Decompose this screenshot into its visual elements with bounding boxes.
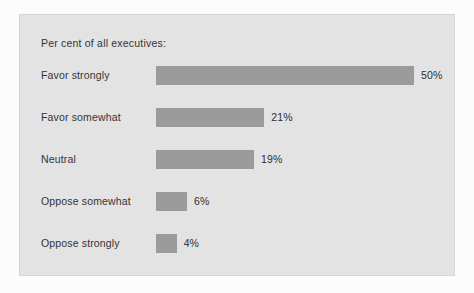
bar-value-label: 21% [271,108,292,127]
bar-category-label: Oppose somewhat [41,192,131,211]
bar-row: Neutral19% [20,150,456,169]
bar-row: Favor somewhat21% [20,108,456,127]
bar [156,108,264,127]
bar-row: Favor strongly50% [20,66,456,85]
bar-category-label: Favor strongly [41,66,110,85]
chart-figure: Per cent of all executives: Favor strong… [0,0,474,293]
bar-category-label: Neutral [41,150,76,169]
bar-track [156,66,414,85]
bar-category-label: Oppose strongly [41,234,120,253]
bar [156,192,187,211]
bar-value-label: 6% [194,192,209,211]
bar-track [156,150,414,169]
chart-panel: Per cent of all executives: Favor strong… [19,14,455,276]
bar-row: Oppose strongly4% [20,234,456,253]
bar-category-label: Favor somewhat [41,108,121,127]
bar [156,66,414,85]
bar-value-label: 19% [261,150,282,169]
bar [156,234,177,253]
bar-value-label: 50% [421,66,442,85]
plot-area: Favor strongly50%Favor somewhat21%Neutra… [20,15,456,277]
bar-row: Oppose somewhat6% [20,192,456,211]
bar [156,150,254,169]
bar-value-label: 4% [184,234,199,253]
